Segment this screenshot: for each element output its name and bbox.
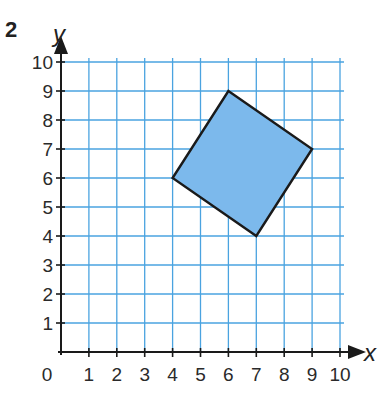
x-axis-label: x — [363, 339, 377, 366]
y-tick-label: 2 — [42, 284, 53, 305]
y-axis-label: y — [51, 20, 67, 47]
y-tick-label: 6 — [42, 168, 53, 189]
y-tick-label: 4 — [42, 226, 53, 247]
y-tick-label: 1 — [42, 313, 53, 334]
x-tick-label: 7 — [251, 364, 262, 385]
coordinate-grid: 01234567891012345678910xy — [0, 0, 383, 404]
quadrilateral-shape — [173, 91, 313, 236]
y-tick-label: 9 — [42, 81, 53, 102]
y-tick-label: 8 — [42, 110, 53, 131]
y-tick-label: 10 — [32, 52, 53, 73]
x-tick-label: 10 — [329, 364, 350, 385]
x-tick-label: 9 — [307, 364, 318, 385]
x-tick-label: 1 — [84, 364, 95, 385]
x-tick-label: 3 — [139, 364, 150, 385]
y-tick-label: 7 — [42, 139, 53, 160]
x-tick-label: 8 — [279, 364, 290, 385]
x-tick-label: 0 — [42, 364, 53, 385]
x-tick-label: 2 — [112, 364, 123, 385]
x-tick-label: 4 — [167, 364, 178, 385]
x-tick-label: 5 — [195, 364, 206, 385]
x-tick-label: 6 — [223, 364, 234, 385]
y-tick-label: 3 — [42, 255, 53, 276]
y-tick-label: 5 — [42, 197, 53, 218]
